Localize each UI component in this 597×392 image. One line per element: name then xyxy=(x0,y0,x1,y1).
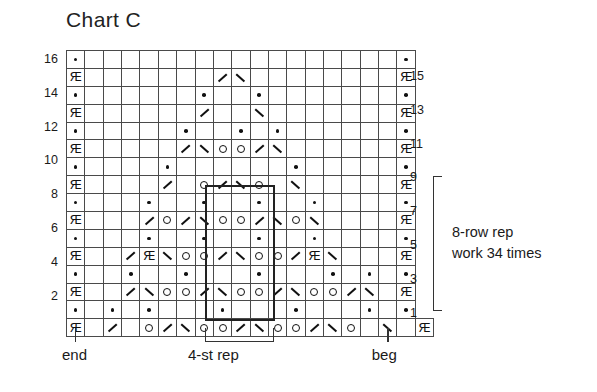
chart-cell xyxy=(85,194,103,212)
left-decrease-icon xyxy=(159,319,176,336)
end-label: end xyxy=(62,346,87,363)
chart-cell xyxy=(342,68,360,86)
chart-row xyxy=(67,51,434,69)
chart-cell xyxy=(67,51,85,69)
purl-dot-icon xyxy=(287,158,304,175)
chart-cell xyxy=(342,212,360,230)
chart-cell xyxy=(287,283,305,301)
chart-cell xyxy=(268,122,286,140)
chart-cell xyxy=(342,247,360,265)
chart-cell xyxy=(213,104,231,122)
chart-cell xyxy=(360,51,378,69)
row-number-left: 12 xyxy=(34,120,58,134)
chart-cell xyxy=(195,86,213,104)
chart-cell xyxy=(85,140,103,158)
chart-cell: Ԙ xyxy=(67,247,85,265)
row-repeat-bracket xyxy=(433,176,442,311)
chart-cell xyxy=(177,68,195,86)
chart-cell xyxy=(122,212,140,230)
chart-row: ԘԘ xyxy=(67,140,434,158)
purl-dot-icon xyxy=(196,194,213,211)
chart-cell xyxy=(342,176,360,194)
purl-dot-icon xyxy=(140,301,157,318)
chart-cell xyxy=(140,86,158,104)
chart-cell xyxy=(287,265,305,283)
chart-cell xyxy=(232,86,250,104)
left-decrease-icon xyxy=(214,69,231,86)
right-decrease-icon xyxy=(269,212,286,229)
purl-dot-icon xyxy=(251,266,268,283)
chart-cell xyxy=(379,283,397,301)
chart-cell xyxy=(122,247,140,265)
chart-cell xyxy=(158,176,176,194)
row-number-left: 2 xyxy=(34,289,58,303)
right-decrease-icon xyxy=(287,284,304,301)
chart-cell xyxy=(324,86,342,104)
chart-cell xyxy=(122,301,140,319)
chart-cell: Ԙ xyxy=(140,247,158,265)
chart-cell xyxy=(85,265,103,283)
chart-cell xyxy=(250,158,268,176)
yarn-over-icon xyxy=(177,284,194,301)
chart-cell xyxy=(213,301,231,319)
row-number-right: 13 xyxy=(410,103,434,117)
chart-cell xyxy=(287,301,305,319)
chart-row: ԘԘ xyxy=(67,176,434,194)
chart-cell xyxy=(379,229,397,247)
purl-dot-icon xyxy=(269,123,286,140)
left-decrease-icon xyxy=(104,319,121,336)
purl-dot-icon xyxy=(122,266,139,283)
chart-cell xyxy=(324,247,342,265)
chart-cell xyxy=(360,86,378,104)
chart-cell xyxy=(324,122,342,140)
chart-cell xyxy=(342,301,360,319)
chart-cell xyxy=(397,86,415,104)
chart-cell xyxy=(360,283,378,301)
chart-cell xyxy=(324,68,342,86)
chart-cell xyxy=(342,140,360,158)
chart-cell xyxy=(324,104,342,122)
chart-cell xyxy=(195,229,213,247)
chart-cell xyxy=(195,68,213,86)
chart-cell xyxy=(103,158,121,176)
chart-cell xyxy=(195,122,213,140)
chart-cell xyxy=(397,51,415,69)
chart-cell xyxy=(158,247,176,265)
chart-cell xyxy=(122,283,140,301)
chart-cell xyxy=(379,301,397,319)
chart-row: ԘԘ xyxy=(67,104,434,122)
chart-cell xyxy=(360,229,378,247)
chart-cell xyxy=(85,283,103,301)
right-decrease-icon xyxy=(324,248,341,265)
purl-dot-icon xyxy=(67,266,84,283)
chart-cell xyxy=(360,68,378,86)
chart-cell xyxy=(360,104,378,122)
chart-cell xyxy=(67,265,85,283)
left-decrease-icon xyxy=(306,319,323,336)
purl-dot-icon xyxy=(232,123,249,140)
chart-cell xyxy=(85,301,103,319)
chart-cell xyxy=(342,265,360,283)
chart-cell xyxy=(232,176,250,194)
chart-cell xyxy=(103,229,121,247)
chart-cell xyxy=(305,140,323,158)
chart-cell xyxy=(103,68,121,86)
left-decrease-icon xyxy=(287,248,304,265)
chart-cell xyxy=(177,51,195,69)
chart-cell xyxy=(140,319,158,337)
chart-cell xyxy=(213,194,231,212)
chart-cell xyxy=(67,301,85,319)
left-decrease-icon xyxy=(196,284,213,301)
chart-cell xyxy=(379,122,397,140)
chart-cell xyxy=(158,158,176,176)
chart-cell xyxy=(85,176,103,194)
chart-cell xyxy=(103,104,121,122)
row-number-left: 10 xyxy=(34,153,58,167)
right-decrease-icon xyxy=(196,140,213,157)
chart-cell xyxy=(195,212,213,230)
chart-cell xyxy=(67,122,85,140)
knot-stitch-icon: Ԙ xyxy=(67,284,84,301)
chart-cell xyxy=(67,194,85,212)
left-decrease-icon xyxy=(177,140,194,157)
chart-cell xyxy=(250,176,268,194)
